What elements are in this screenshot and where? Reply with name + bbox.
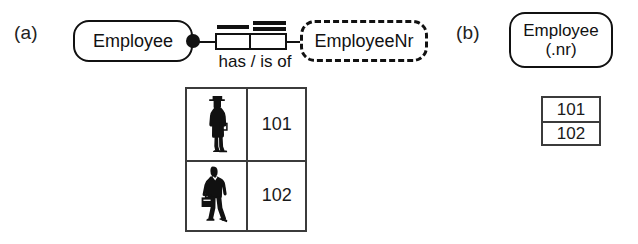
uniqueness-constraint-double-bar-top-icon (253, 21, 286, 25)
orm-diagram-canvas: (a) Employee EmployeeNr has / is of (0, 0, 638, 244)
panel-label-a: (a) (14, 22, 38, 44)
fact-type-role-box[interactable] (215, 33, 287, 50)
entity-type-employee[interactable]: Employee (73, 20, 193, 62)
population-table-a: person-standing-icon 101 (185, 87, 307, 232)
population-cell-value: 102 (248, 162, 305, 231)
table-row: person-briefcase-icon 102 (187, 160, 305, 231)
table-row: 102 (543, 121, 599, 144)
uniqueness-constraint-single-bar-icon (217, 25, 249, 29)
connector-line-employee-to-role (193, 41, 217, 44)
population-cell-value: 102 (543, 123, 599, 144)
predicate-reading-label: has / is of (205, 52, 305, 72)
uniqueness-constraint-double-bar-bottom-icon (253, 27, 286, 31)
entity-type-employee-with-reference-mode[interactable]: Employee (.nr) (509, 12, 613, 68)
population-table-b: 101 102 (541, 96, 601, 146)
population-cell-value: 101 (543, 98, 599, 121)
population-cell-value: 101 (248, 89, 305, 160)
value-type-employeenr[interactable]: EmployeeNr (300, 20, 428, 62)
person-standing-icon: person-standing-icon (187, 89, 248, 160)
role-cell-left[interactable] (217, 35, 251, 48)
person-briefcase-icon: person-briefcase-icon (187, 162, 248, 231)
table-row: 101 (543, 98, 599, 121)
table-row: person-standing-icon 101 (187, 89, 305, 160)
panel-label-b: (b) (456, 22, 480, 44)
role-cell-right[interactable] (251, 35, 285, 48)
